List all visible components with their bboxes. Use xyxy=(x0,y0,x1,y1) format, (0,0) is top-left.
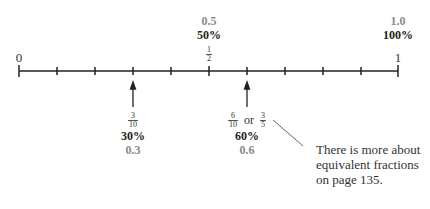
m60-percent: 60% xyxy=(235,129,259,144)
whole-decimal: 1.0 xyxy=(391,14,406,29)
m60-fraction-group: 610 or 35 xyxy=(228,110,266,129)
label-zero: 0 xyxy=(16,50,23,66)
equivalent-fractions-note: There is more about equivalent fractions… xyxy=(316,142,426,187)
label-one: 1 xyxy=(395,50,402,66)
half-fraction: 12 xyxy=(206,44,212,63)
m60-decimal: 0.6 xyxy=(240,143,255,158)
half-decimal: 0.5 xyxy=(202,14,217,29)
m30-fraction: 310 xyxy=(128,110,138,129)
m30-decimal: 0.3 xyxy=(126,143,141,158)
arrow-30-head-icon xyxy=(131,82,136,89)
note-leader-line xyxy=(273,120,303,146)
arrow-60-head-icon xyxy=(245,82,250,89)
whole-percent: 100% xyxy=(383,28,413,43)
half-percent: 50% xyxy=(197,28,221,43)
m60-or: or xyxy=(244,113,254,127)
m30-percent: 30% xyxy=(121,129,145,144)
